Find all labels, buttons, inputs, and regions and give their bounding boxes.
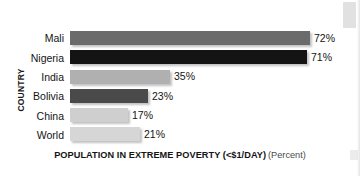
bar-nigeria [70,50,307,64]
value-label-bolivia: 23% [152,91,173,102]
bar-group-world: 21% [70,127,165,141]
value-label-world: 21% [144,129,165,140]
bar-row: India 35% [0,68,360,87]
value-label-nigeria: 71% [311,52,332,63]
x-axis-title: POPULATION IN EXTREME POVERTY (<$1/DAY)(… [0,150,360,160]
bar-row: Mali 72% [0,29,360,48]
category-label-mali: Mali [0,33,67,44]
category-label-nigeria: Nigeria [0,53,67,64]
bar-china [70,108,128,122]
bar-row: Bolivia 23% [0,87,360,106]
bar-row: China 17% [0,106,360,125]
bar-group-nigeria: 71% [70,50,332,64]
category-label-bolivia: Bolivia [0,91,67,102]
bar-india [70,70,170,84]
value-label-mali: 72% [314,33,335,44]
category-label-india: India [0,72,67,83]
plot-area: Mali 72% Nigeria 71% India 35% Bolivia [0,29,360,145]
bar-row: World 21% [0,125,360,144]
bar-group-china: 17% [70,108,153,122]
bar-group-bolivia: 23% [70,89,173,103]
bar-mali [70,31,310,45]
bar-group-mali: 72% [70,31,335,45]
value-label-india: 35% [174,71,195,82]
category-label-china: China [0,111,67,122]
x-axis-title-text: POPULATION IN EXTREME POVERTY (<$1/DAY) [54,150,266,160]
bar-bolivia [70,89,148,103]
value-label-china: 17% [132,110,153,121]
scan-artifact-top-right [343,2,356,28]
bar-row: Nigeria 71% [0,48,360,67]
x-axis-unit-text: (Percent) [268,150,306,160]
bar-group-india: 35% [70,70,195,84]
category-label-world: World [0,130,67,141]
bar-world [70,127,140,141]
poverty-bar-chart: COUNTRY Mali 72% Nigeria 71% India 35% [0,0,360,176]
